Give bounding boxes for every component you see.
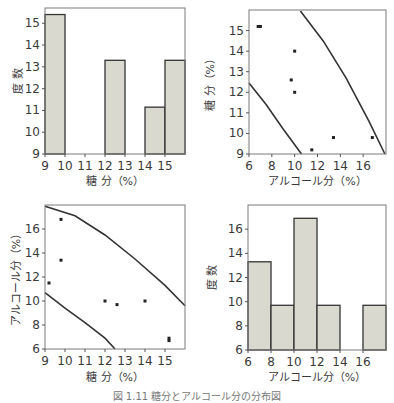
data-point xyxy=(293,50,296,53)
y-tick-label: 10 xyxy=(228,295,243,309)
chart-sugar-histogram: 91011121314159101112131415糖 分（%）度 数 xyxy=(11,8,185,188)
boundary-curve-upper-bound xyxy=(45,206,185,306)
y-tick-label: 11 xyxy=(229,106,244,120)
x-tick-label: 15 xyxy=(157,354,172,368)
y-tick-label: 12 xyxy=(25,82,40,96)
y-tick-label: 13 xyxy=(25,60,40,74)
data-point xyxy=(371,136,374,139)
x-tick-label: 16 xyxy=(356,159,371,173)
y-tick-label: 15 xyxy=(25,16,40,30)
x-tick-label: 6 xyxy=(245,159,253,173)
data-point xyxy=(48,282,51,285)
histogram-bar xyxy=(105,60,125,154)
plot-frame xyxy=(45,205,185,349)
x-tick-label: 16 xyxy=(355,355,370,369)
y-tick-label: 12 xyxy=(228,271,243,285)
histogram-bar xyxy=(363,305,386,350)
histogram-bar xyxy=(271,305,294,350)
plot-frame xyxy=(249,10,386,154)
data-point xyxy=(60,218,63,221)
x-tick-label: 8 xyxy=(267,355,275,369)
data-point xyxy=(104,300,107,303)
histogram-bar xyxy=(165,60,185,154)
x-tick-label: 14 xyxy=(333,159,348,173)
y-tick-label: 14 xyxy=(25,246,40,260)
y-tick-label: 10 xyxy=(25,125,40,139)
x-tick-label: 15 xyxy=(157,159,172,173)
x-tick-label: 14 xyxy=(332,355,347,369)
y-tick-label: 12 xyxy=(25,270,40,284)
x-tick-label: 8 xyxy=(268,159,276,173)
y-tick-label: 8 xyxy=(32,318,40,332)
x-tick-label: 10 xyxy=(57,159,72,173)
x-tick-label: 14 xyxy=(137,159,152,173)
x-tick-label: 10 xyxy=(286,355,301,369)
histogram-bar xyxy=(317,305,340,350)
x-tick-label: 10 xyxy=(287,159,302,173)
data-point xyxy=(293,91,296,94)
x-tick-label: 12 xyxy=(97,159,112,173)
y-axis-label: アルコール分（%） xyxy=(10,228,23,326)
data-point xyxy=(290,78,293,81)
x-axis-label: アルコール分（%） xyxy=(268,371,366,384)
boundary-curve-upper-bound xyxy=(300,11,385,154)
y-tick-label: 16 xyxy=(25,222,40,236)
x-tick-label: 12 xyxy=(310,159,325,173)
histogram-bar xyxy=(145,107,165,154)
y-tick-label: 12 xyxy=(229,85,244,99)
x-tick-label: 13 xyxy=(117,354,132,368)
y-tick-label: 8 xyxy=(235,319,243,333)
histogram-bar xyxy=(45,15,65,154)
x-tick-label: 13 xyxy=(117,159,132,173)
y-tick-label: 6 xyxy=(235,343,243,357)
x-tick-label: 12 xyxy=(97,354,112,368)
x-tick-label: 6 xyxy=(244,355,252,369)
y-tick-label: 16 xyxy=(228,222,243,236)
y-tick-label: 10 xyxy=(229,126,244,140)
figure-caption: 図 1.11 糖分とアルコール分の分布図 xyxy=(0,388,394,403)
data-point xyxy=(60,259,63,262)
histogram-bar xyxy=(294,218,317,350)
x-axis-label: 糖 分（%） xyxy=(86,370,144,384)
data-point xyxy=(116,303,119,306)
y-tick-label: 14 xyxy=(228,246,243,260)
y-tick-label: 11 xyxy=(25,103,40,117)
x-tick-label: 14 xyxy=(137,354,152,368)
x-tick-label: 9 xyxy=(41,159,49,173)
data-point xyxy=(168,339,171,342)
chart-sugar-vs-alcohol-scatter: 68101214169101112131415アルコール分（%）糖 分（%） xyxy=(203,10,386,188)
x-tick-label: 12 xyxy=(309,355,324,369)
chart-alcohol-vs-sugar-scatter: 91011121314156810121416糖 分（%）アルコール分（%） xyxy=(10,205,185,384)
y-tick-label: 10 xyxy=(25,294,40,308)
y-tick-label: 15 xyxy=(229,24,244,38)
y-axis-label: 糖 分（%） xyxy=(203,53,217,111)
y-axis-label: 度 数 xyxy=(205,265,219,291)
x-tick-label: 10 xyxy=(57,354,72,368)
x-axis-label: アルコール分（%） xyxy=(268,175,366,188)
x-tick-label: 11 xyxy=(77,159,92,173)
data-point xyxy=(310,148,313,151)
y-tick-label: 14 xyxy=(25,38,40,52)
data-point xyxy=(144,300,147,303)
y-axis-label: 度 数 xyxy=(11,68,25,94)
x-tick-label: 11 xyxy=(77,354,92,368)
data-point xyxy=(259,25,262,28)
y-tick-label: 9 xyxy=(236,147,244,161)
x-axis-label: 糖 分（%） xyxy=(86,174,144,188)
y-tick-label: 9 xyxy=(32,147,40,161)
y-tick-label: 13 xyxy=(229,65,244,79)
x-tick-label: 9 xyxy=(41,354,49,368)
histogram-bar xyxy=(248,262,271,350)
y-tick-label: 14 xyxy=(229,44,244,58)
chart-alcohol-histogram: 68101214166810121416アルコール分（%）度 数 xyxy=(205,205,386,384)
data-point xyxy=(332,136,335,139)
y-tick-label: 6 xyxy=(32,342,40,356)
